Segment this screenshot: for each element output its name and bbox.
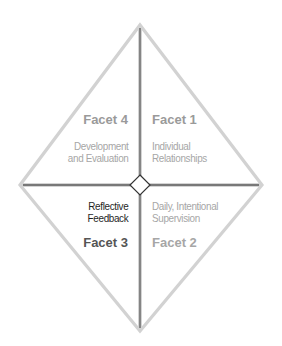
facet-2-description: Daily, Intentional Supervision [152,200,218,224]
facet-4-description-line-1: Development [67,140,128,152]
facet-3-description-line-1: Reflective [87,200,128,212]
diamond-shape [0,0,282,346]
facet-diamond-diagram: Facet 4 Development and Evaluation Facet… [0,0,282,346]
facet-2-description-line-2: Supervision [152,212,218,224]
facet-4-title: Facet 4 [83,114,128,126]
facet-1-title: Facet 1 [152,114,197,126]
facet-2-description-line-1: Daily, Intentional [152,200,218,212]
facet-1-description-line-2: Relationships [152,152,207,164]
facet-1-description: Individual Relationships [152,140,207,164]
facet-3-description: Reflective Feedback [87,200,128,224]
facet-1-description-line-1: Individual [152,140,207,152]
facet-4-description-line-2: and Evaluation [67,152,128,164]
facet-4-description: Development and Evaluation [67,140,128,164]
facet-3-description-line-2: Feedback [87,212,128,224]
facet-3-title: Facet 3 [83,237,128,249]
center-diamond [130,175,150,195]
facet-2-title: Facet 2 [152,237,197,249]
